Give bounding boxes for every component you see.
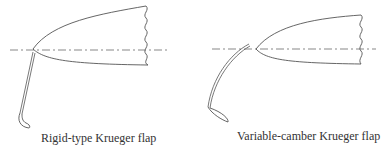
rigid-krueger-panel [10, 6, 167, 128]
caption-variable-camber-krueger: Variable-camber Krueger flap [237, 129, 380, 144]
rigid-flap-left [20, 52, 35, 114]
variable-flap-tip [208, 107, 228, 122]
variable-krueger-panel [208, 15, 376, 122]
airfoil-leading-edge-right [256, 15, 361, 64]
airfoil-leading-edge-left [33, 6, 148, 65]
break-line-left [145, 6, 148, 65]
caption-rigid-krueger: Rigid-type Krueger flap [41, 131, 156, 146]
rigid-flap-hook [19, 113, 30, 128]
variable-camber-flap [208, 44, 250, 108]
break-line-right [360, 15, 362, 64]
